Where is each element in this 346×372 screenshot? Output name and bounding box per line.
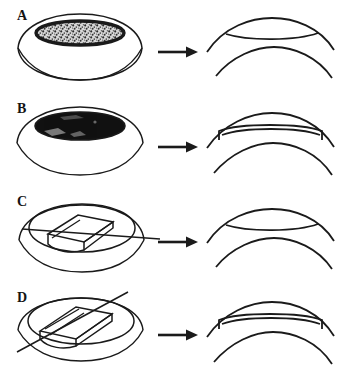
cross-section-posterior-arc-b (214, 143, 332, 175)
panel-c: C (0, 188, 346, 285)
dome-outline-d (18, 298, 143, 330)
panel-d-artwork (0, 285, 346, 372)
cross-section-posterior-arc-c (216, 238, 332, 269)
cross-section-lenticule-a (226, 33, 318, 39)
treatment-zone-stipple-a (36, 21, 124, 45)
cross-section-posterior-arc-d (214, 332, 332, 364)
cross-section-flap-inner-d (222, 318, 320, 324)
dome-outline-c (19, 205, 144, 240)
panel-a-artwork (0, 0, 346, 95)
transform-arrow-c (158, 237, 198, 248)
treatment-zone-solid-b (35, 112, 125, 140)
transform-arrow-b (158, 142, 198, 153)
transform-arrow-a (158, 47, 198, 58)
cross-section-flap-inner-b (222, 129, 320, 135)
figure-container: A (0, 0, 346, 372)
panel-a: A (0, 0, 346, 95)
dome-base-curve-b (17, 143, 143, 175)
panel-b: B (0, 93, 346, 188)
dome-base-curve-c (19, 240, 144, 272)
panel-c-artwork (0, 188, 346, 285)
panel-d: D (0, 285, 346, 372)
dome-top-ellipse-c (29, 204, 135, 252)
transform-arrow-d (158, 330, 198, 341)
cross-section-lenticule-c (226, 224, 318, 230)
dome-base-curve-a (18, 48, 142, 80)
cross-section-posterior-arc-a (216, 47, 332, 78)
panel-b-artwork (0, 93, 346, 188)
